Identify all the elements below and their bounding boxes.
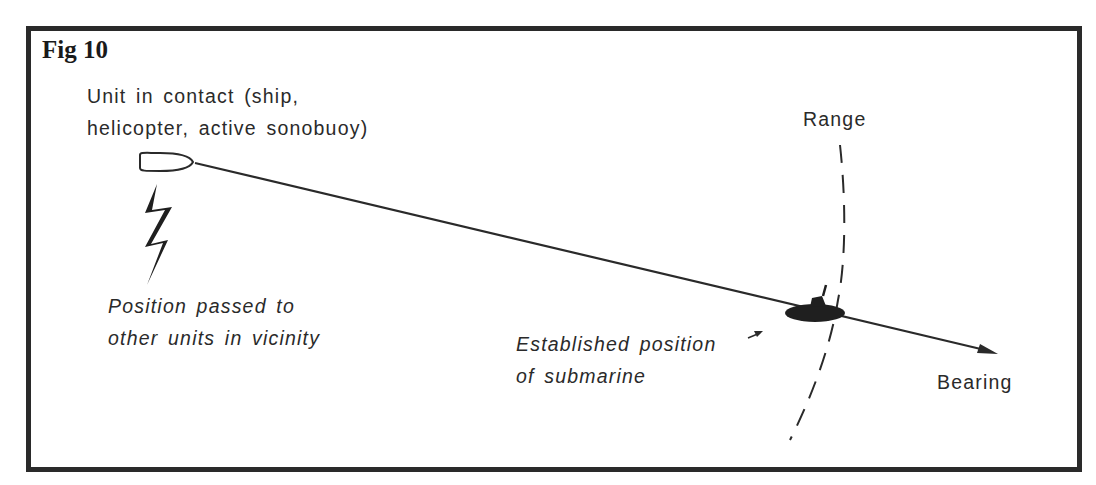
arrowhead-icon bbox=[977, 344, 998, 354]
diagram-graphics bbox=[0, 0, 1096, 485]
ship-icon bbox=[140, 153, 193, 171]
lightning-bolt-icon bbox=[145, 184, 172, 285]
submarine-icon bbox=[785, 285, 845, 322]
range-arc bbox=[790, 145, 844, 440]
pointer-arrowhead-icon bbox=[754, 331, 763, 337]
bearing-line bbox=[195, 163, 985, 350]
